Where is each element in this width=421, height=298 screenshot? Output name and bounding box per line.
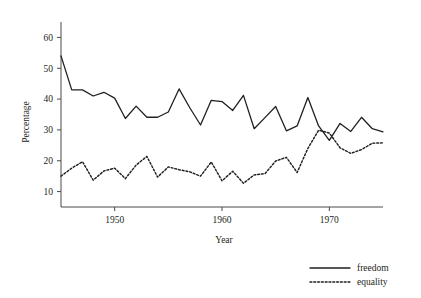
x-axis: 195019601970 (61, 207, 383, 225)
x-tick-group: 195019601970 (105, 207, 339, 225)
x-tick-label: 1950 (105, 215, 124, 225)
chart-legend: freedom equality (310, 263, 389, 287)
y-tick-label: 60 (44, 33, 54, 43)
y-axis: 102030405060 (44, 22, 62, 207)
y-axis-title: Percentage (21, 101, 31, 143)
y-tick-label: 30 (44, 125, 54, 135)
chart-canvas: 102030405060 195019601970 Percentage Yea… (0, 0, 421, 298)
y-tick-group: 102030405060 (44, 33, 62, 197)
series-group (61, 56, 383, 183)
legend-label-freedom: freedom (357, 263, 389, 273)
y-tick-label: 50 (44, 64, 54, 74)
legend-label-equality: equality (357, 277, 388, 287)
x-tick-label: 1960 (213, 215, 232, 225)
series-line-freedom (61, 56, 383, 140)
y-tick-label: 20 (44, 156, 54, 166)
series-line-equality (61, 130, 383, 183)
y-tick-label: 40 (44, 94, 54, 104)
y-tick-label: 10 (44, 187, 54, 197)
x-tick-label: 1970 (320, 215, 339, 225)
x-axis-title: Year (215, 235, 233, 245)
line-chart: 102030405060 195019601970 Percentage Yea… (0, 0, 421, 298)
